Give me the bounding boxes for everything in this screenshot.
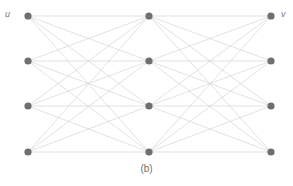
graph-node[interactable] <box>24 57 31 64</box>
graph-node[interactable] <box>267 12 274 19</box>
graph-node[interactable] <box>267 57 274 64</box>
node-set-label-v: v <box>281 10 286 19</box>
graph-canvas <box>0 0 293 186</box>
graph-edges-group <box>28 16 271 152</box>
figure-caption: (b) <box>0 164 293 174</box>
graph-node[interactable] <box>145 102 152 109</box>
figure-container: u v (b) <box>0 0 293 186</box>
graph-node[interactable] <box>145 57 152 64</box>
graph-nodes-group <box>24 12 274 155</box>
graph-node[interactable] <box>267 102 274 109</box>
graph-node[interactable] <box>24 148 31 155</box>
node-set-label-u: u <box>5 10 10 19</box>
graph-node[interactable] <box>24 102 31 109</box>
graph-node[interactable] <box>145 12 152 19</box>
graph-node[interactable] <box>145 148 152 155</box>
graph-node[interactable] <box>24 12 31 19</box>
graph-node[interactable] <box>267 148 274 155</box>
